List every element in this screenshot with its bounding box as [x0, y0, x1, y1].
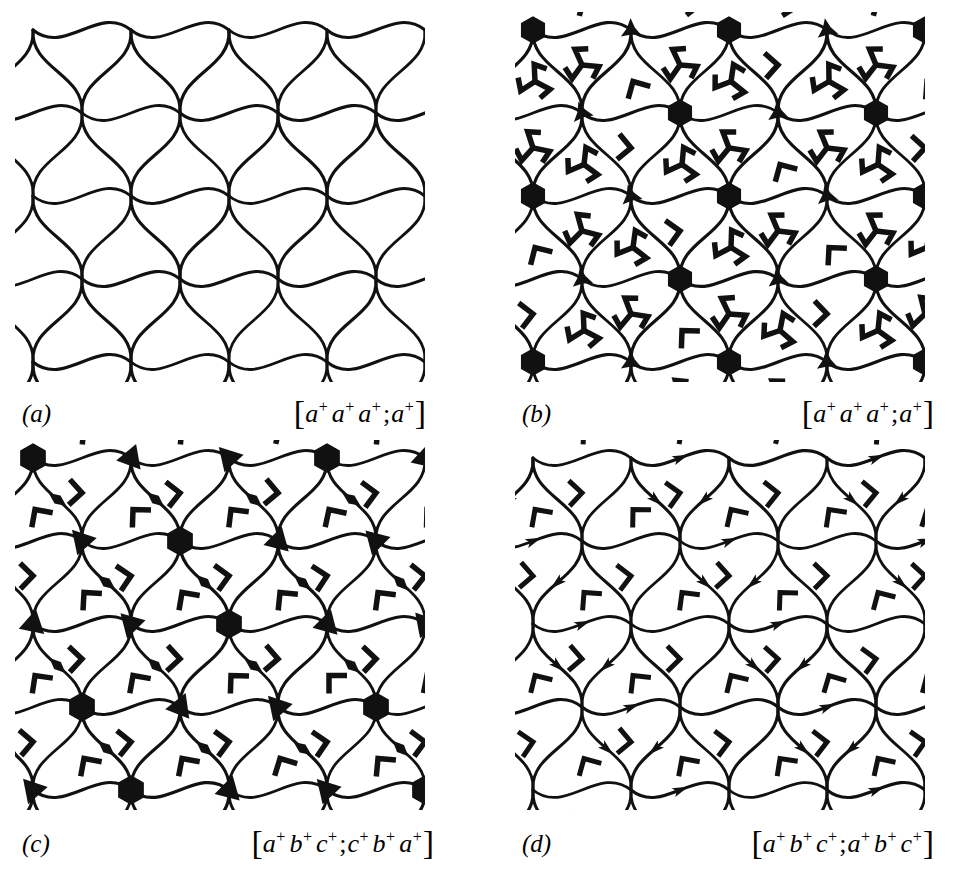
caption-d: (d) [a+b+c+;a+b+c+]	[522, 822, 934, 860]
panel-d-diagram	[515, 440, 925, 810]
figure-root: (a) [a+a+a+;a+] (b) [a+a+a+;a+] (c) [a+b…	[0, 0, 964, 870]
panel-c-diagram	[15, 440, 425, 810]
caption-c-letter: (c)	[22, 830, 50, 858]
caption-c: (c) [a+b+c+;c+b+a+]	[22, 822, 434, 860]
panel-a-diagram	[15, 12, 425, 382]
caption-c-expression: [a+b+c+;c+b+a+]	[252, 822, 434, 860]
panel-b-diagram	[515, 12, 925, 382]
caption-a-expression: [a+a+a+;a+]	[294, 392, 426, 430]
caption-b: (b) [a+a+a+;a+]	[522, 392, 934, 430]
caption-a: (a) [a+a+a+;a+]	[22, 392, 426, 430]
caption-d-letter: (d)	[522, 830, 551, 858]
caption-d-expression: [a+b+c+;a+b+c+]	[752, 822, 934, 860]
caption-a-letter: (a)	[22, 400, 51, 428]
caption-b-letter: (b)	[522, 400, 551, 428]
caption-b-expression: [a+a+a+;a+]	[802, 392, 934, 430]
